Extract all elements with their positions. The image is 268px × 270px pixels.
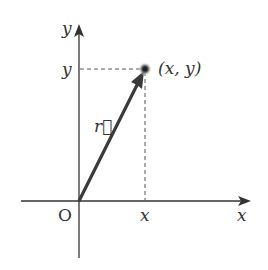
point-label: (x, y) — [158, 60, 201, 77]
y-axis-label: y — [62, 20, 72, 37]
y-tick-label: y — [62, 61, 72, 78]
vector-r — [79, 71, 144, 201]
x-axis — [21, 196, 251, 206]
position-vector-diagram: y y (x, y) r⃗ O x x — [0, 0, 268, 270]
vector-label: r⃗ — [94, 118, 112, 135]
diagram-graphics — [0, 0, 268, 270]
x-tick-label: x — [140, 207, 150, 224]
y-axis — [74, 24, 84, 258]
origin-label: O — [58, 207, 72, 224]
x-axis-label: x — [237, 207, 247, 224]
point-marker — [143, 67, 147, 71]
